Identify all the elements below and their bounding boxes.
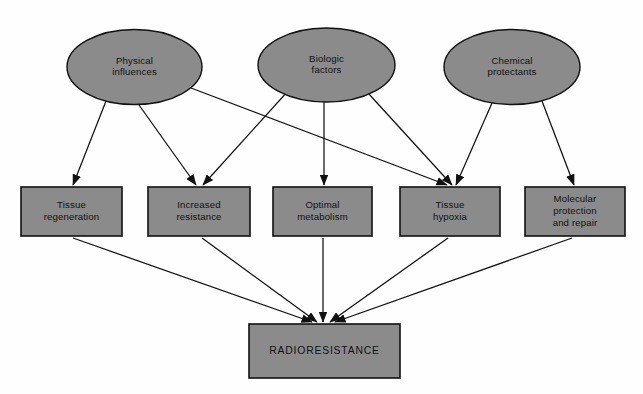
edge-physical-to-tissue-regeneration bbox=[73, 101, 106, 185]
edge-tissue-regeneration-to-radioresistance bbox=[73, 238, 312, 322]
node-biologic-factors[interactable]: Biologicfactors bbox=[258, 28, 395, 102]
label-tissue-regeneration-line-1: Tissue bbox=[57, 199, 86, 210]
edge-physical-to-increased-resistance bbox=[139, 105, 196, 185]
node-increased-resistance[interactable]: Increasedresistance bbox=[148, 187, 250, 236]
edge-tissue-hypoxia-to-radioresistance bbox=[330, 238, 448, 322]
label-molecular-protection-line-1: Molecular bbox=[554, 193, 598, 204]
label-biologic-factors-line-1: Biologic bbox=[309, 53, 344, 64]
node-molecular-protection[interactable]: Molecularprotectionand repair bbox=[525, 187, 625, 236]
node-tissue-regeneration[interactable]: Tissueregeneration bbox=[21, 187, 122, 236]
label-biologic-factors-line-2: factors bbox=[312, 64, 342, 75]
label-optimal-metabolism-line-1: Optimal bbox=[305, 199, 339, 210]
label-increased-resistance-line-1: Increased bbox=[177, 199, 220, 210]
edge-biologic-to-increased-resistance bbox=[203, 91, 288, 185]
node-chemical-protectants[interactable]: Chemicalprotectants bbox=[444, 30, 580, 105]
label-optimal-metabolism-line-2: metabolism bbox=[297, 211, 348, 222]
label-tissue-hypoxia-line-2: hypoxia bbox=[433, 211, 468, 222]
label-radioresistance-line-1: RADIORESISTANCE bbox=[269, 345, 380, 356]
label-physical-influences-line-1: Physical bbox=[116, 55, 153, 66]
diagram-canvas: PhysicalinfluencesBiologicfactorsChemica… bbox=[0, 0, 643, 394]
edge-molecular-protection-to-radioresistance bbox=[335, 238, 572, 322]
edge-physical-to-tissue-hypoxia bbox=[191, 88, 447, 185]
label-increased-resistance-line-2: resistance bbox=[176, 211, 221, 222]
edge-increased-resistance-to-radioresistance bbox=[202, 238, 317, 322]
label-tissue-regeneration-line-2: regeneration bbox=[44, 211, 100, 222]
label-tissue-hypoxia-line-1: Tissue bbox=[436, 199, 465, 210]
label-chemical-protectants-line-1: Chemical bbox=[491, 55, 532, 66]
outcome-node-group: RADIORESISTANCE bbox=[249, 324, 400, 378]
label-molecular-protection-line-2: protection bbox=[553, 205, 597, 216]
source-nodes-group: PhysicalinfluencesBiologicfactorsChemica… bbox=[67, 28, 580, 105]
mechanism-nodes-group: TissueregenerationIncreasedresistanceOpt… bbox=[21, 187, 625, 236]
label-molecular-protection-line-3: and repair bbox=[553, 217, 598, 228]
label-chemical-protectants-line-2: protectants bbox=[487, 66, 536, 77]
radioresistance-diagram: PhysicalinfluencesBiologicfactorsChemica… bbox=[0, 0, 643, 394]
label-physical-influences-line-2: influences bbox=[112, 66, 157, 77]
node-tissue-hypoxia[interactable]: Tissuehypoxia bbox=[400, 187, 500, 236]
node-optimal-metabolism[interactable]: Optimalmetabolism bbox=[273, 187, 372, 236]
node-physical-influences[interactable]: Physicalinfluences bbox=[67, 30, 202, 105]
node-radioresistance[interactable]: RADIORESISTANCE bbox=[249, 324, 400, 378]
edge-chemical-to-molecular-protection bbox=[542, 101, 574, 185]
edge-chemical-to-tissue-hypoxia bbox=[456, 103, 492, 185]
